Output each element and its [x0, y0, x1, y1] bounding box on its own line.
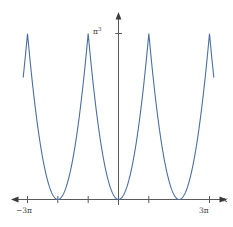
x-axis-arrow-left [11, 197, 19, 203]
y-axis [116, 12, 122, 205]
y-tick-exponent: 3 [98, 26, 102, 32]
x-axis-tick-label-minus-3pi: −3π [16, 207, 32, 215]
y-axis-tick-label-pi-cubed: π3 [93, 28, 101, 36]
x-axis-tick-label-3pi: 3π [199, 207, 209, 215]
y-axis-arrow-top [116, 12, 122, 20]
plot-canvas [0, 0, 233, 227]
x-axis-label: x [223, 196, 228, 204]
chart-figure: x π3 −3π 3π [0, 0, 233, 227]
